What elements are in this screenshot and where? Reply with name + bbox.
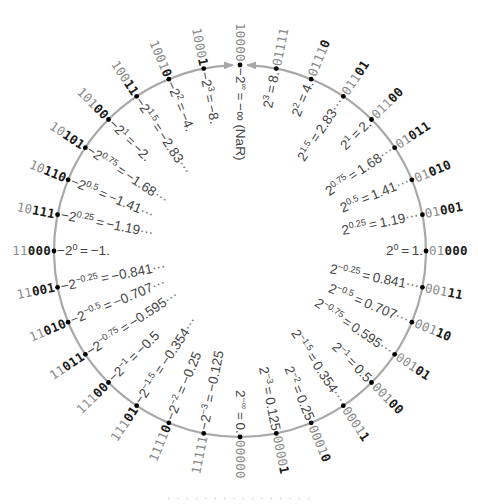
point-dot	[424, 249, 429, 254]
point-dot	[238, 435, 243, 440]
point-dot	[52, 249, 57, 254]
value-label: −2∞ = −∞ (NaR)	[233, 68, 247, 160]
bit-pattern-label: 11000	[12, 244, 51, 258]
bit-pattern-label: 10000	[233, 23, 247, 62]
point-dot	[238, 63, 243, 68]
bit-pattern-label: 01000	[429, 244, 468, 258]
point-dot	[369, 117, 374, 122]
point-dot	[55, 285, 60, 290]
bit-pattern-label: 00000	[233, 440, 247, 479]
value-label: 2−∞ = 0.	[233, 390, 247, 434]
point-dot	[274, 66, 279, 71]
value-label: −20 = −1.	[57, 244, 110, 258]
point-dot	[55, 212, 60, 217]
value-label: 20 = 1.	[386, 244, 423, 258]
point-dot	[201, 66, 206, 71]
footer-caption: · · · · · · · · · · · · · · · ·	[0, 491, 478, 504]
point-dot	[409, 177, 414, 182]
